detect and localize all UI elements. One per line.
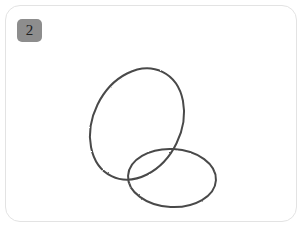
- screenshot-root: 2: [0, 0, 305, 229]
- step-number-badge: 2: [17, 19, 42, 42]
- step-number-label: 2: [26, 23, 34, 38]
- sketch-drawing-area: [6, 6, 298, 223]
- sketch-canvas: [6, 6, 298, 223]
- drawing-card: 2: [5, 5, 297, 222]
- large-tilted-oval-shape: [72, 53, 202, 196]
